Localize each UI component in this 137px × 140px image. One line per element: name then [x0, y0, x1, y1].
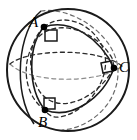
- vertex-dot-B: [42, 107, 49, 114]
- great-circle-AB-back: [44, 20, 106, 117]
- spherical-triangle-figure: A B C: [0, 0, 137, 140]
- vertex-label-C: C: [119, 60, 129, 75]
- vertex-label-A: A: [29, 15, 38, 30]
- figure-canvas: [0, 0, 137, 140]
- vertex-dot-A: [41, 24, 48, 31]
- vertex-label-B: B: [38, 115, 47, 130]
- vertex-dot-C: [111, 65, 118, 72]
- great-circle-BC-back: [26, 28, 114, 110]
- sphere-outline-circle: [7, 9, 129, 131]
